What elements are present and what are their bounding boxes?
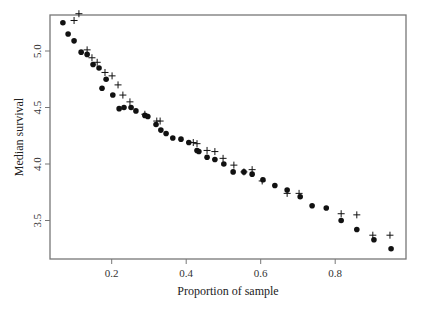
dot-marker xyxy=(354,227,360,233)
plus-marker xyxy=(101,69,108,76)
plot-frame xyxy=(50,15,406,259)
dot-marker xyxy=(133,108,139,114)
dot-marker xyxy=(371,237,377,243)
dot-marker xyxy=(204,154,210,160)
dot-marker xyxy=(170,135,176,141)
dot-marker xyxy=(297,194,303,200)
plus-marker xyxy=(338,210,345,217)
dot-marker xyxy=(323,205,329,211)
plus-marker xyxy=(75,10,82,17)
plus-marker xyxy=(126,98,133,105)
scatter-chart: 0.20.40.60.8 3.54.04.55.0 Proportion of … xyxy=(0,0,421,309)
plus-marker xyxy=(230,162,237,169)
dot-marker xyxy=(121,105,127,111)
y-axis-label: Median survival xyxy=(12,97,26,176)
dot-marker xyxy=(163,131,169,137)
x-tick-label: 0.4 xyxy=(179,267,193,279)
y-tick-label: 5.0 xyxy=(31,44,43,58)
plus-marker xyxy=(211,148,218,155)
dot-marker xyxy=(260,177,266,183)
x-tick-label: 0.2 xyxy=(105,267,119,279)
dot-marker xyxy=(196,149,202,155)
x-tick-label: 0.8 xyxy=(328,267,342,279)
plus-marker xyxy=(119,92,126,99)
x-tick-label: 0.6 xyxy=(254,267,268,279)
plus-marker xyxy=(71,17,78,24)
plus-marker xyxy=(84,46,91,53)
y-tick-label: 3.5 xyxy=(31,213,43,227)
dot-marker xyxy=(128,105,134,111)
dot-marker xyxy=(71,38,77,44)
dot-marker xyxy=(116,106,122,112)
dot-marker xyxy=(65,31,71,37)
plus-marker xyxy=(220,155,227,162)
plus-marker xyxy=(115,81,122,88)
plus-marker xyxy=(109,72,116,79)
y-tick-label: 4.5 xyxy=(31,100,43,114)
dot-marker xyxy=(309,203,315,209)
data-points xyxy=(60,10,394,251)
plus-marker xyxy=(240,168,247,175)
dot-marker xyxy=(60,20,66,26)
plus-marker xyxy=(249,166,256,173)
dot-marker xyxy=(212,157,218,163)
dot-marker xyxy=(230,169,236,175)
y-tick-label: 4.0 xyxy=(31,157,43,171)
x-axis-ticks: 0.20.40.60.8 xyxy=(105,259,343,279)
dot-marker xyxy=(272,183,278,189)
y-axis-ticks: 3.54.04.55.0 xyxy=(31,44,50,228)
plus-marker xyxy=(194,140,201,147)
dot-marker xyxy=(103,76,109,82)
x-axis-label: Proportion of sample xyxy=(177,284,278,298)
dot-marker xyxy=(96,65,102,71)
dot-marker xyxy=(110,92,116,98)
dot-marker xyxy=(158,127,164,133)
dot-marker xyxy=(221,161,227,167)
plus-marker xyxy=(204,147,211,154)
dot-marker xyxy=(388,246,394,252)
dot-marker xyxy=(178,136,184,142)
dot-marker xyxy=(338,218,344,224)
plus-marker xyxy=(190,139,197,146)
dot-marker xyxy=(153,122,159,128)
plus-marker xyxy=(386,232,393,239)
dot-marker xyxy=(78,49,84,55)
dot-marker xyxy=(99,85,105,91)
plus-marker xyxy=(353,211,360,218)
